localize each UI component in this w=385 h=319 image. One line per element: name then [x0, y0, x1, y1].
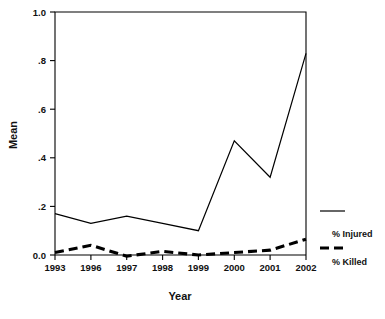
y-tick-label-0: 0.0 [33, 250, 46, 261]
x-tick-label-7: 2002 [295, 262, 316, 273]
plot-frame [55, 12, 306, 255]
y-tick-label-4: .8 [38, 55, 46, 66]
legend-label-injured: % Injured [332, 229, 373, 239]
y-tick-label-3: .6 [38, 104, 46, 115]
y-axis-title: Mean [7, 121, 19, 149]
x-axis-title: Year [168, 290, 192, 302]
x-tick-label-4: 1999 [188, 262, 209, 273]
y-axis-tick-labels: 0.0 .2 .4 .6 .8 1.0 [33, 7, 47, 261]
x-tick-label-3: 1998 [152, 262, 173, 273]
frame-left-top-right [55, 12, 306, 255]
x-axis-tick-labels: 1993 1996 1997 1998 1999 2000 2001 2002 [44, 262, 316, 273]
series-line-killed [55, 239, 306, 256]
x-tick-label-1: 1996 [80, 262, 101, 273]
x-axis-ticks [55, 255, 306, 260]
series-line-injured [55, 53, 306, 230]
line-chart: 0.0 .2 .4 .6 .8 1.0 Mean 1993 1996 1997 … [0, 0, 385, 319]
x-tick-label-0: 1993 [44, 262, 65, 273]
legend-label-killed: % Killed [332, 257, 367, 267]
y-tick-label-2: .4 [38, 152, 47, 163]
y-axis-ticks [50, 12, 55, 255]
y-tick-label-1: .2 [38, 201, 46, 212]
x-tick-label-6: 2001 [260, 262, 282, 273]
x-tick-label-5: 2000 [224, 262, 245, 273]
y-tick-label-5: 1.0 [33, 7, 46, 18]
x-tick-label-2: 1997 [116, 262, 137, 273]
legend: % Injured % Killed [320, 211, 373, 267]
